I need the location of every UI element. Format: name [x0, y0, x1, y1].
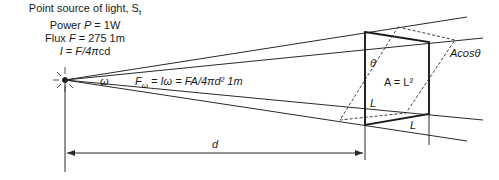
omega-label: ω — [100, 75, 109, 88]
theta-label: θ — [370, 57, 376, 70]
flux-omega-formula: Fω = Iω = FA/4πd² 1m — [135, 75, 243, 92]
distance-label: d — [212, 138, 218, 151]
side-l-bottom-label: L — [410, 119, 416, 132]
area-label: A = L² — [384, 76, 413, 89]
projected-area-label: Acosθ — [450, 47, 480, 60]
diagram-canvas — [0, 0, 499, 180]
projected-area-shape — [340, 27, 455, 120]
side-l-vertical-label: L — [370, 97, 376, 110]
light-rays — [65, 17, 483, 141]
